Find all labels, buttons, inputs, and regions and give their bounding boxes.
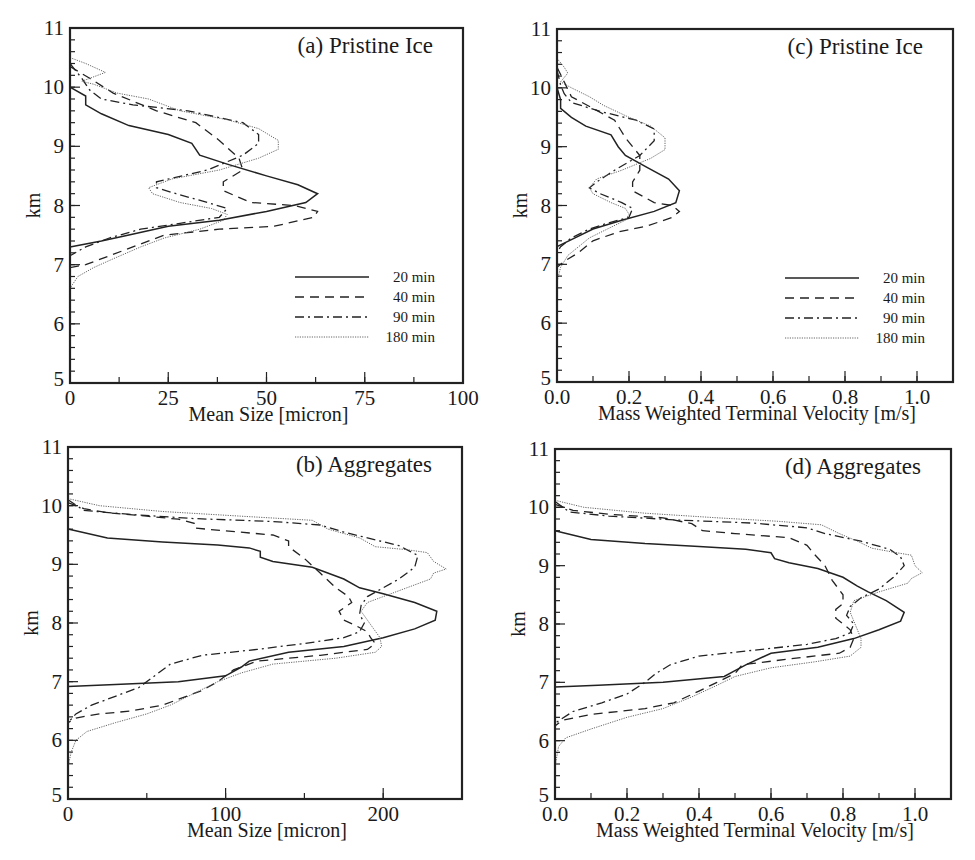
y-tick-label: 8 (52, 611, 63, 635)
x-axis-title: Mass Weighted Terminal Velocity [m/s] (598, 402, 916, 425)
y-tick-label: 9 (54, 134, 65, 158)
y-axis-title: km (22, 192, 44, 218)
legend-label: 40 min (393, 289, 436, 305)
panel-a-pristine-ice-mean-size: 0255075100567891011 (a) Pristine Ice Mea… (22, 16, 479, 425)
plot-lines (70, 58, 318, 289)
y-tick-label: 7 (54, 253, 65, 277)
series-20-min (70, 87, 318, 247)
y-axis-title: km (507, 611, 529, 637)
panel-title: (c) Pristine Ice (788, 34, 923, 59)
x-axis-title: Mass Weighted Terminal Velocity [m/s] (596, 819, 914, 842)
y-axis-title: km (509, 192, 531, 218)
legend-label: 180 min (875, 330, 925, 346)
series-90-min (555, 502, 904, 724)
y-tick-label: 9 (541, 135, 552, 159)
y-tick-label: 11 (42, 435, 62, 459)
series-40-min (68, 503, 375, 723)
y-tick-label: 11 (44, 16, 64, 40)
figure: 0255075100567891011 (a) Pristine Ice Mea… (0, 0, 975, 860)
x-tick-label: 75 (354, 386, 375, 410)
legend: 20 min40 min90 min180 min (295, 269, 435, 345)
plot-frame (68, 447, 462, 799)
y-tick-label: 10 (528, 495, 549, 519)
y-tick-label: 5 (52, 783, 63, 807)
panel-title: (d) Aggregates (785, 454, 921, 479)
x-axis-title: Mean Size [micron] (187, 819, 347, 841)
axis-ticks: 0.00.20.40.60.81.0567891011 (528, 437, 951, 826)
legend-label: 20 min (393, 269, 436, 285)
legend-label: 90 min (883, 310, 926, 326)
legend: 20 min40 min90 min180 min (785, 270, 925, 346)
y-tick-label: 8 (54, 194, 65, 218)
y-tick-label: 5 (539, 783, 550, 807)
series-90-min (68, 500, 418, 723)
y-tick-label: 5 (541, 366, 552, 390)
x-axis-title: Mean Size [micron] (189, 403, 349, 425)
series-180-min (70, 58, 278, 289)
panel-c-pristine-ice-terminal-velocity: 0.00.20.40.60.81.0567891011 (c) Pristine… (509, 17, 953, 425)
series-40-min (70, 67, 318, 268)
y-tick-label: 11 (531, 17, 551, 41)
y-tick-label: 8 (539, 612, 550, 636)
y-tick-label: 5 (54, 367, 65, 391)
panel-b-aggregates-mean-size: 0100200567891011 (b) Aggregates Mean Siz… (20, 435, 462, 841)
panel-title: (b) Aggregates (296, 452, 432, 477)
x-tick-label: 0 (65, 386, 76, 410)
x-tick-label: 25 (158, 386, 179, 410)
y-tick-label: 11 (529, 437, 549, 461)
y-tick-label: 9 (539, 554, 550, 578)
y-axis-title: km (20, 610, 42, 636)
y-tick-label: 9 (52, 552, 63, 576)
y-tick-label: 6 (52, 728, 63, 752)
plot-lines (557, 58, 679, 282)
plot-lines (555, 500, 922, 767)
y-tick-label: 6 (54, 312, 65, 336)
y-tick-label: 10 (43, 75, 64, 99)
axis-ticks: 0100200567891011 (41, 435, 462, 826)
axis-ticks: 0.00.20.40.60.81.0567891011 (530, 17, 953, 409)
x-tick-label: 200 (367, 802, 399, 826)
y-tick-label: 7 (52, 670, 63, 694)
x-tick-label: 100 (447, 386, 479, 410)
y-tick-label: 7 (541, 252, 552, 276)
legend-label: 180 min (385, 329, 435, 345)
plot-lines (68, 499, 446, 767)
y-tick-label: 10 (41, 494, 62, 518)
series-20-min (557, 88, 679, 247)
x-tick-label: 0 (63, 802, 74, 826)
panel-title: (a) Pristine Ice (298, 33, 433, 58)
series-180-min (557, 58, 665, 282)
y-tick-label: 7 (539, 670, 550, 694)
series-40-min (555, 504, 854, 726)
y-tick-label: 8 (541, 194, 552, 218)
legend-label: 40 min (883, 290, 926, 306)
y-tick-label: 6 (541, 311, 552, 335)
series-20-min (555, 531, 904, 687)
y-tick-label: 10 (530, 76, 551, 100)
legend-label: 90 min (393, 309, 436, 325)
legend-label: 20 min (883, 270, 926, 286)
panel-d-aggregates-terminal-velocity: 0.00.20.40.60.81.0567891011 (d) Aggregat… (507, 437, 951, 842)
y-tick-label: 6 (539, 729, 550, 753)
